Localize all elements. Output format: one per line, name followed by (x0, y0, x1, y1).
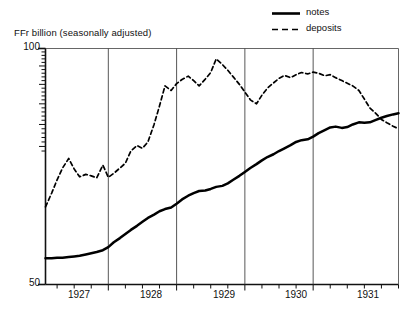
legend-item-deposits: deposits (272, 21, 398, 37)
x-axis-tick-label-1929: 1929 (199, 289, 249, 300)
x-axis-tick-label-1931: 1931 (343, 289, 393, 300)
y-axis-tick-label-bottom: 50 (14, 277, 40, 288)
plot-area (0, 0, 405, 323)
chart-legend: notes deposits (272, 5, 398, 39)
legend-line-sample-solid (272, 12, 300, 15)
series-line-notes (46, 113, 399, 258)
legend-item-notes: notes (272, 5, 398, 21)
legend-label-deposits: deposits (306, 22, 341, 33)
legend-line-sample-dashed (272, 28, 300, 31)
gridlines-group (108, 49, 313, 285)
y-axis-tick-label-top: 100 (14, 41, 40, 52)
axes-group (46, 49, 399, 285)
y-axis-title: FFr billion (seasonally adjusted) (14, 27, 151, 38)
legend-label-notes: notes (306, 6, 329, 17)
data-series-group (46, 59, 399, 258)
x-axis-tick-label-1928: 1928 (126, 289, 176, 300)
chart-figure: FFr billion (seasonally adjusted) 100 50… (0, 0, 405, 323)
x-axis-tick-label-1927: 1927 (54, 289, 104, 300)
x-axis-tick-label-1930: 1930 (271, 289, 321, 300)
